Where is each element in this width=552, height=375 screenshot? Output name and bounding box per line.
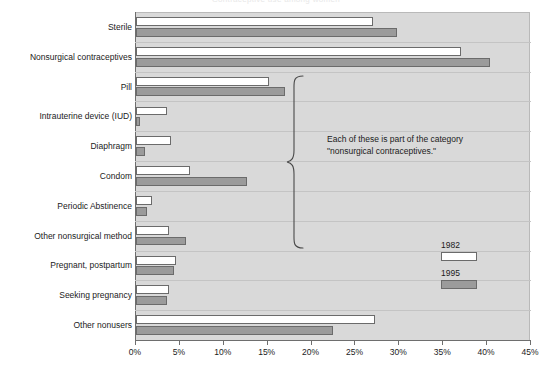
table-row: Intrauterine device (IUD)	[0, 101, 552, 131]
bar-1982	[136, 226, 169, 235]
x-tick-label: 20%	[302, 347, 319, 357]
x-tick-label: 10%	[214, 347, 231, 357]
x-axis-ticks: 0%5%10%15%20%25%30%35%40%45%	[0, 341, 552, 361]
category-label: Diaphragm	[90, 142, 132, 151]
bar-1982	[136, 166, 190, 175]
chart-legend: 1982 1995	[441, 240, 531, 296]
table-row: Pill	[0, 72, 552, 102]
row-divider	[135, 221, 531, 222]
category-label: Seeking pregnancy	[59, 291, 132, 300]
category-brace-icon	[285, 72, 319, 252]
x-tick-label: 25%	[346, 347, 363, 357]
category-label: Sterile	[108, 23, 132, 32]
category-label: Nonsurgical contraceptives	[30, 53, 132, 62]
bar-1982	[136, 315, 375, 324]
table-row: Periodic Abstinence	[0, 191, 552, 221]
bar-1982	[136, 107, 167, 116]
bar-1982	[136, 17, 373, 26]
x-tick-mark	[354, 341, 355, 345]
bar-1995	[136, 147, 145, 156]
legend-label-1995: 1995	[441, 268, 531, 279]
brace-annotation-text: Each of these is part of the category "n…	[327, 134, 477, 157]
bar-1995	[136, 117, 140, 126]
x-tick-label: 35%	[434, 347, 451, 357]
row-divider	[135, 42, 531, 43]
row-divider	[135, 72, 531, 73]
x-tick-mark	[223, 341, 224, 345]
bar-1982	[136, 77, 269, 86]
bar-1982	[136, 256, 176, 265]
category-label: Condom	[100, 172, 132, 181]
category-label: Other nonusers	[73, 321, 132, 330]
x-tick-mark	[267, 341, 268, 345]
x-tick-mark	[179, 341, 180, 345]
bar-1995	[136, 326, 333, 335]
category-label: Intrauterine device (IUD)	[39, 112, 132, 121]
x-tick-mark	[486, 341, 487, 345]
category-label: Pill	[121, 83, 132, 92]
table-row: Nonsurgical contraceptives	[0, 42, 552, 72]
row-divider	[135, 131, 531, 132]
row-divider	[135, 310, 531, 311]
chart-title: Contraceptive use among women	[0, 0, 552, 4]
bar-1995	[136, 207, 147, 216]
bar-1995	[136, 266, 174, 275]
legend-label-1982: 1982	[441, 240, 531, 251]
x-tick-label: 45%	[521, 347, 538, 357]
row-divider	[135, 101, 531, 102]
category-label: Periodic Abstinence	[57, 202, 132, 211]
x-tick-mark	[442, 341, 443, 345]
x-tick-label: 0%	[129, 347, 141, 357]
bar-1982	[136, 196, 152, 205]
bar-1995	[136, 177, 247, 186]
legend-swatch-1995	[441, 280, 477, 289]
bar-1982	[136, 47, 461, 56]
x-tick-mark	[530, 341, 531, 345]
x-tick-label: 30%	[390, 347, 407, 357]
table-row: Condom	[0, 161, 552, 191]
bar-1995	[136, 296, 167, 305]
legend-entry-1995: 1995	[441, 268, 531, 289]
row-divider	[135, 191, 531, 192]
legend-swatch-1982	[441, 252, 477, 261]
bar-1995	[136, 87, 285, 96]
row-divider	[135, 161, 531, 162]
x-tick-label: 15%	[258, 347, 275, 357]
x-tick-mark	[135, 341, 136, 345]
bar-1982	[136, 136, 171, 145]
bar-chart: Contraceptive use among women SterileNon…	[0, 0, 552, 375]
category-label: Other nonsurgical method	[34, 232, 132, 241]
table-row: Other nonusers	[0, 310, 552, 340]
bar-1995	[136, 28, 397, 37]
bar-1995	[136, 58, 490, 67]
x-tick-label: 40%	[478, 347, 495, 357]
bar-1995	[136, 237, 186, 246]
x-tick-label: 5%	[173, 347, 185, 357]
category-label: Pregnant, postpartum	[50, 261, 132, 270]
bar-1982	[136, 285, 169, 294]
legend-entry-1982: 1982	[441, 240, 531, 261]
x-tick-mark	[398, 341, 399, 345]
table-row: Sterile	[0, 12, 552, 42]
x-tick-mark	[311, 341, 312, 345]
